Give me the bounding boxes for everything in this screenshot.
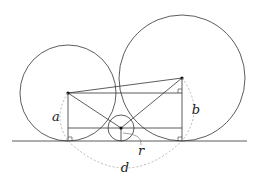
right-angle-marker-bottom-left — [68, 137, 72, 141]
centers-line — [68, 78, 182, 93]
label-d: d — [121, 160, 129, 175]
geometry-diagram: a b r d — [0, 0, 255, 182]
label-r: r — [138, 143, 145, 158]
label-b: b — [192, 102, 200, 117]
right-angle-marker-top-right — [178, 89, 182, 93]
right-to-small-line — [121, 78, 182, 128]
right-angle-marker-bottom-right — [178, 137, 182, 141]
small-center-dot — [119, 126, 122, 129]
label-a: a — [52, 109, 60, 124]
dimension-arc-a — [60, 93, 68, 141]
